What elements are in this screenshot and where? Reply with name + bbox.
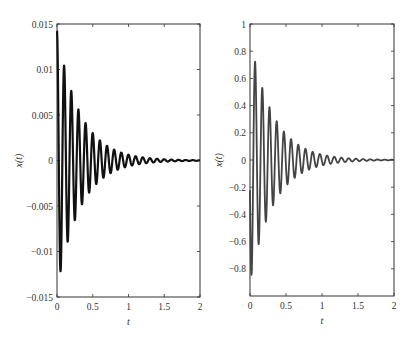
x-tick-label: 2 — [392, 301, 397, 311]
y-axis-label: x(t) — [213, 152, 225, 168]
x-axis-label: t — [127, 316, 130, 327]
x-tick-label: 0 — [55, 302, 60, 312]
y-tick-label: −0.8 — [229, 264, 246, 274]
y-tick-label: 0.8 — [234, 47, 246, 57]
damped-oscillation-line — [250, 62, 394, 275]
y-tick-label: 0.6 — [234, 74, 246, 84]
y-axis-label: x(t) — [13, 153, 25, 169]
y-tick-label: 0.4 — [234, 101, 246, 111]
x-tick-label: 0 — [248, 301, 253, 311]
damped-oscillation-line — [57, 31, 200, 271]
left-plot-displacement: 00.511.520.0150.010.0050−0.005−0.01−0.01… — [13, 20, 203, 328]
x-tick-label: 1.5 — [158, 302, 170, 312]
y-tick-label: 1 — [241, 20, 246, 30]
y-tick-label: −0.4 — [229, 210, 246, 220]
y-tick-label: 0 — [48, 156, 53, 166]
y-tick-label: 0 — [241, 156, 246, 166]
x-tick-label: 1 — [320, 301, 325, 311]
right-plot-velocity: 00.511.5210.80.60.40.20−0.2−0.4−0.6−0.8t… — [213, 20, 397, 327]
y-tick-label: 0.005 — [32, 111, 54, 121]
figure: 00.511.520.0150.010.0050−0.005−0.01−0.01… — [0, 0, 415, 341]
y-tick-label: 0.01 — [36, 65, 53, 75]
y-tick-label: −0.015 — [26, 293, 53, 303]
x-tick-label: 0.5 — [280, 301, 292, 311]
y-tick-label: 0.2 — [234, 128, 246, 138]
x-tick-label: 1 — [126, 302, 131, 312]
x-tick-label: 0.5 — [87, 302, 99, 312]
y-tick-label: −0.005 — [26, 202, 53, 212]
y-tick-label: −0.6 — [229, 237, 246, 247]
y-tick-label: 0.015 — [32, 20, 54, 30]
x-axis-label: t — [321, 315, 324, 326]
x-tick-label: 1.5 — [352, 301, 364, 311]
x-tick-label: 2 — [198, 302, 203, 312]
y-tick-label: −0.01 — [31, 247, 53, 257]
y-tick-label: −0.2 — [229, 183, 246, 193]
